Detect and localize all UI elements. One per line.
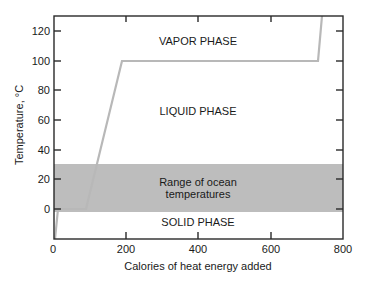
- liquid-phase-label: LIQUID PHASE: [159, 105, 236, 117]
- x-axis-ticks-top: [126, 16, 271, 22]
- y-tick-label: 60: [38, 114, 50, 126]
- band-label-line2: temperatures: [166, 188, 231, 200]
- solid-phase-label: SOLID PHASE: [161, 216, 234, 228]
- x-tick-label: 600: [262, 243, 280, 255]
- vapor-phase-label: VAPOR PHASE: [159, 35, 237, 47]
- x-axis-label: Calories of heat energy added: [124, 260, 271, 272]
- x-axis-ticks-bottom: [126, 232, 271, 239]
- y-tick-label: 80: [38, 84, 50, 96]
- x-tick-label: 200: [117, 243, 135, 255]
- x-tick-label: 800: [334, 243, 352, 255]
- y-tick-label: 120: [32, 25, 50, 37]
- y-tick-label: 0: [44, 203, 50, 215]
- x-tick-label: 400: [189, 243, 207, 255]
- x-tick-label: 0: [50, 243, 56, 255]
- y-tick-label: 100: [32, 55, 50, 67]
- heating-curve-chart: 0 20 40 60 80 100 120 0 200 400 600 800 …: [0, 0, 373, 283]
- x-tick-labels: 0 200 400 600 800: [50, 243, 352, 255]
- y-tick-labels: 0 20 40 60 80 100 120: [32, 25, 50, 215]
- y-axis-label: Temperature, °C: [13, 85, 25, 165]
- y-tick-label: 20: [38, 173, 50, 185]
- band-label-line1: Range of ocean: [159, 176, 237, 188]
- y-tick-label: 40: [38, 144, 50, 156]
